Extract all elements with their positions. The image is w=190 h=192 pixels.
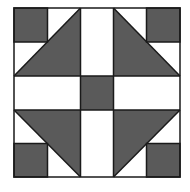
center-square — [81, 76, 114, 110]
corner-square-top-left — [14, 8, 48, 42]
corner-square-bottom-left — [14, 144, 48, 178]
quilt-block-diagram — [0, 0, 190, 192]
corner-square-top-right — [147, 8, 181, 42]
corner-square-bottom-right — [147, 144, 181, 178]
